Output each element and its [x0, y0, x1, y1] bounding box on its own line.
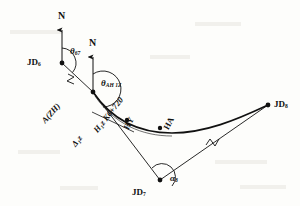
- point-jd6[interactable]: [60, 61, 65, 66]
- diagram-canvas: N N JD6 JD7 JD8 θ67 θAH 1Z α8 A(ZH) H₁z …: [0, 0, 300, 206]
- point-label-jd7-text: JD: [132, 187, 143, 197]
- alpha-8-sub: 8: [175, 177, 178, 183]
- tangent-jd7-jd8: [160, 105, 268, 180]
- tangent-jd6-a: [62, 63, 93, 92]
- point-a-zh[interactable]: [91, 90, 96, 95]
- point-label-jd6: JD6: [27, 58, 41, 68]
- diagram-svg: [0, 0, 300, 206]
- north-label-right: N: [89, 38, 96, 48]
- point-label-jd8-sub: 8: [285, 103, 288, 109]
- point-jd7[interactable]: [158, 178, 163, 183]
- north-label-left: N: [58, 11, 65, 21]
- point-label-jd8-text: JD: [274, 99, 285, 109]
- point-label-jd6-sub: 6: [38, 61, 41, 67]
- angle-label-theta-ah1z: θAH 1Z: [101, 79, 121, 89]
- point-label-jd7-sub: 7: [143, 191, 146, 197]
- point-label-jd6-text: JD: [27, 57, 38, 67]
- angle-label-theta-67: θ67: [70, 47, 80, 57]
- theta-ah1z-sub: AH 1Z: [106, 82, 122, 88]
- point-label-jd7: JD7: [132, 188, 146, 198]
- theta-67-sub: 67: [75, 50, 81, 56]
- tick-mark-jd6-a: [67, 74, 74, 84]
- point-label-jd8: JD8: [274, 100, 288, 110]
- angle-label-alpha-8: α8: [170, 174, 178, 184]
- point-jd8[interactable]: [266, 103, 271, 108]
